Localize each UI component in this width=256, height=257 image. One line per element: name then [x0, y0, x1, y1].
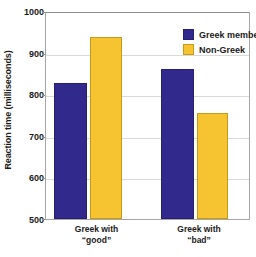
plot-area: Greek member Non-Greek	[45, 12, 250, 220]
x-tick-label-greek-with-good: Greek with “good”	[45, 224, 148, 246]
y-tick-label-700: 700	[4, 132, 44, 142]
x-tick-label-good-line1: Greek with	[75, 224, 118, 234]
bar-greek-member-good	[54, 83, 87, 219]
bar-greek-member-bad	[161, 69, 194, 219]
y-tick-label-500: 500	[4, 215, 44, 225]
y-tick-label-900: 900	[4, 49, 44, 59]
bar-chart-figure: Reaction time (milliseconds) 1000 900 80…	[0, 0, 256, 257]
x-tick-label-greek-with-bad: Greek with “bad”	[148, 224, 250, 246]
bar-non-greek-bad	[197, 113, 228, 219]
y-tick-label-1000: 1000	[4, 7, 44, 17]
x-tick-label-bad-line1: Greek with	[177, 224, 220, 234]
legend-item-non-greek: Non-Greek	[183, 44, 256, 55]
y-tick-label-600: 600	[4, 173, 44, 183]
legend-label-non-greek: Non-Greek	[199, 45, 245, 55]
legend-item-greek-member: Greek member	[183, 29, 256, 40]
chart-legend: Greek member Non-Greek	[179, 27, 256, 58]
y-axis-title-label: Reaction time (milliseconds)	[3, 50, 13, 169]
y-tick-label-800: 800	[4, 90, 44, 100]
bar-non-greek-good	[90, 37, 122, 219]
legend-label-greek-member: Greek member	[199, 30, 256, 40]
legend-swatch-icon-non-greek	[183, 44, 194, 55]
x-tick-label-good-line2: “good”	[45, 235, 148, 246]
legend-swatch-icon-greek-member	[183, 29, 194, 40]
y-axis-title: Reaction time (milliseconds)	[0, 0, 16, 220]
x-tick-label-bad-line2: “bad”	[148, 235, 250, 246]
